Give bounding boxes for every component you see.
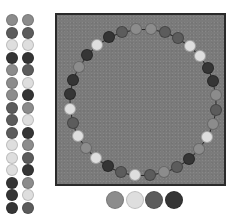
ring-dot-mid[interactable] bbox=[207, 118, 219, 130]
ring-dot-darkest[interactable] bbox=[207, 75, 219, 87]
palette-row[interactable] bbox=[6, 89, 46, 101]
ring-dot-light[interactable] bbox=[194, 50, 206, 62]
ring-dot-light[interactable] bbox=[64, 103, 76, 115]
palette-dot-darkest[interactable] bbox=[22, 89, 34, 101]
color-choices bbox=[106, 191, 186, 211]
palette-row[interactable] bbox=[6, 202, 46, 214]
ring-dot-dark[interactable] bbox=[116, 26, 128, 38]
palette-row[interactable] bbox=[6, 14, 46, 26]
palette-row[interactable] bbox=[6, 102, 46, 114]
palette-dot-light[interactable] bbox=[6, 39, 18, 51]
palette-row[interactable] bbox=[6, 127, 46, 139]
palette-dot-darkest[interactable] bbox=[6, 52, 18, 64]
palette-dot-dark[interactable] bbox=[22, 64, 34, 76]
palette-dot-light[interactable] bbox=[6, 152, 18, 164]
palette-dot-darkest[interactable] bbox=[6, 189, 18, 201]
palette-dot-dark[interactable] bbox=[6, 102, 18, 114]
ring-dot-darkest[interactable] bbox=[103, 31, 115, 43]
ring-dot-darkest[interactable] bbox=[67, 74, 79, 86]
palette-dot-mid[interactable] bbox=[6, 64, 18, 76]
ring-dot-mid[interactable] bbox=[158, 166, 170, 178]
palette-row[interactable] bbox=[6, 27, 46, 39]
ring-dot-light[interactable] bbox=[91, 39, 103, 51]
palette-dot-mid[interactable] bbox=[22, 177, 34, 189]
palette-dot-mid[interactable] bbox=[22, 14, 34, 26]
ring-dot-mid[interactable] bbox=[210, 89, 222, 101]
palette-dot-mid[interactable] bbox=[22, 139, 34, 151]
ring-dot-darkest[interactable] bbox=[81, 49, 93, 61]
ring-dot-mid[interactable] bbox=[193, 143, 205, 155]
palette-row[interactable] bbox=[6, 39, 46, 51]
palette-dot-mid[interactable] bbox=[22, 102, 34, 114]
palette-dot-dark[interactable] bbox=[6, 127, 18, 139]
palette-dot-light[interactable] bbox=[6, 164, 18, 176]
palette-dot-dark[interactable] bbox=[22, 152, 34, 164]
palette-dot-mid[interactable] bbox=[6, 14, 18, 26]
ring-dot-dark[interactable] bbox=[171, 161, 183, 173]
color-choice-darkest[interactable] bbox=[165, 191, 183, 209]
palette-dot-darkest[interactable] bbox=[6, 202, 18, 214]
palette-dot-darkest[interactable] bbox=[6, 177, 18, 189]
palette-row[interactable] bbox=[6, 52, 46, 64]
ring-dot-dark[interactable] bbox=[144, 169, 156, 181]
color-choice-dark[interactable] bbox=[145, 191, 163, 209]
color-choice-light[interactable] bbox=[126, 191, 144, 209]
ring-dot-darkest[interactable] bbox=[202, 62, 214, 74]
palette-dot-darkest[interactable] bbox=[22, 164, 34, 176]
palette-dot-dark[interactable] bbox=[22, 202, 34, 214]
ring-dot-darkest[interactable] bbox=[183, 153, 195, 165]
color-choice-mid[interactable] bbox=[106, 191, 124, 209]
palette-dot-light[interactable] bbox=[22, 77, 34, 89]
ring-dot-light[interactable] bbox=[72, 130, 84, 142]
palette-dot-dark[interactable] bbox=[22, 27, 34, 39]
ring-dot-light[interactable] bbox=[129, 169, 141, 181]
game-board[interactable] bbox=[55, 13, 226, 186]
palette-row[interactable] bbox=[6, 114, 46, 126]
ring-dot-dark[interactable] bbox=[172, 32, 184, 44]
palette-row[interactable] bbox=[6, 164, 46, 176]
ring-dot-mid[interactable] bbox=[145, 23, 157, 35]
palette-dot-darkest[interactable] bbox=[22, 52, 34, 64]
palette-dot-mid[interactable] bbox=[6, 89, 18, 101]
ring-dot-mid[interactable] bbox=[73, 61, 85, 73]
palette-dot-light[interactable] bbox=[22, 39, 34, 51]
palette-dot-light[interactable] bbox=[22, 189, 34, 201]
palette-dot-darkest[interactable] bbox=[22, 127, 34, 139]
palette-dot-mid[interactable] bbox=[6, 77, 18, 89]
palette-dot-dark[interactable] bbox=[6, 114, 18, 126]
ring-dot-mid[interactable] bbox=[130, 23, 142, 35]
palette-dot-dark[interactable] bbox=[6, 27, 18, 39]
palette-row[interactable] bbox=[6, 189, 46, 201]
palette-row[interactable] bbox=[6, 177, 46, 189]
palette-row[interactable] bbox=[6, 139, 46, 151]
ring-dot-darkest[interactable] bbox=[64, 88, 76, 100]
palette-row[interactable] bbox=[6, 77, 46, 89]
ring-dot-darkest[interactable] bbox=[102, 160, 114, 172]
ring-dot-light[interactable] bbox=[201, 131, 213, 143]
palette-dot-light[interactable] bbox=[6, 139, 18, 151]
ring-dot-dark[interactable] bbox=[159, 26, 171, 38]
ring-dot-dark[interactable] bbox=[67, 117, 79, 129]
ring-dot-light[interactable] bbox=[184, 40, 196, 52]
ring-dot-dark[interactable] bbox=[115, 166, 127, 178]
palette-row[interactable] bbox=[6, 64, 46, 76]
palette-row[interactable] bbox=[6, 152, 46, 164]
palette-dot-light[interactable] bbox=[22, 114, 34, 126]
ring-dot-dark[interactable] bbox=[210, 104, 222, 116]
